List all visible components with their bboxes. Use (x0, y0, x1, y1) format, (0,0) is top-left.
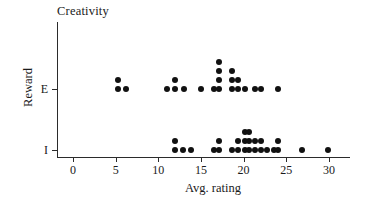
data-point (229, 86, 235, 92)
data-point (216, 86, 222, 92)
data-point (246, 147, 252, 153)
data-point (172, 86, 178, 92)
x-tick-label-5: 5 (101, 163, 131, 178)
data-point (172, 138, 178, 144)
page-title: Creativity (57, 4, 109, 19)
data-point (242, 86, 248, 92)
data-point (115, 86, 121, 92)
data-point (246, 138, 252, 144)
x-tick-label-0: 0 (58, 163, 88, 178)
data-point (216, 147, 222, 153)
x-tick-mark-0 (73, 157, 74, 162)
data-point (198, 86, 204, 92)
x-tick-mark-25 (286, 157, 287, 162)
x-tick-mark-15 (201, 157, 202, 162)
data-point (216, 138, 222, 144)
x-tick-label-20: 20 (229, 163, 259, 178)
data-point (258, 86, 264, 92)
y-tick-mark-e (52, 89, 57, 90)
data-point (246, 129, 252, 135)
data-point (229, 147, 235, 153)
x-tick-mark-20 (244, 157, 245, 162)
data-point (216, 77, 222, 83)
x-tick-label-30: 30 (314, 163, 344, 178)
data-point (275, 86, 281, 92)
data-point (172, 77, 178, 83)
data-point (325, 147, 331, 153)
y-tick-mark-i (52, 150, 57, 151)
data-point (258, 138, 264, 144)
data-point (123, 86, 129, 92)
data-point (188, 147, 194, 153)
x-tick-label-25: 25 (271, 163, 301, 178)
data-point (115, 77, 121, 83)
data-point (258, 147, 264, 153)
data-point (235, 138, 241, 144)
data-point (252, 147, 258, 153)
data-point (229, 77, 235, 83)
data-point (229, 68, 235, 74)
x-tick-label-15: 15 (186, 163, 216, 178)
data-point (264, 147, 270, 153)
x-axis-line (57, 157, 350, 158)
x-tick-label-10: 10 (143, 163, 173, 178)
data-point (235, 147, 241, 153)
data-point (252, 86, 258, 92)
y-tick-label-i: I (28, 143, 48, 158)
data-point (275, 138, 281, 144)
creativity-scatter-chart: Creativity Reward E I 051015202530 Avg. … (0, 0, 381, 204)
data-point (181, 86, 187, 92)
data-point (299, 147, 305, 153)
x-tick-mark-30 (329, 157, 330, 162)
x-tick-mark-10 (158, 157, 159, 162)
x-tick-mark-5 (116, 157, 117, 162)
y-axis-line (57, 22, 58, 157)
data-point (216, 68, 222, 74)
data-point (172, 147, 178, 153)
data-point (164, 86, 170, 92)
data-point (252, 138, 258, 144)
data-point (275, 147, 281, 153)
x-axis-label: Avg. rating (0, 181, 381, 196)
data-point (180, 147, 186, 153)
data-point (235, 77, 241, 83)
data-point (235, 86, 241, 92)
data-point (216, 59, 222, 65)
y-tick-label-e: E (28, 82, 48, 97)
